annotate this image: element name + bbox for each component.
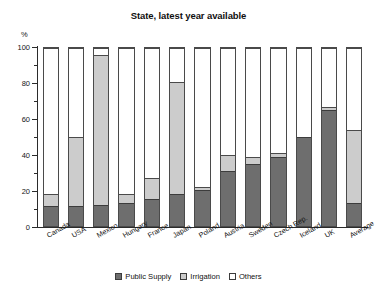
bar-segment-public-supply [119, 203, 133, 226]
y-axis-tick-label: 0 [4, 223, 30, 232]
bar-canada[interactable] [43, 47, 59, 227]
bar-segment-irrigation [145, 178, 159, 199]
plot-area [38, 47, 367, 227]
bar-czech-rep[interactable] [270, 47, 286, 227]
light-gray-swatch [180, 273, 187, 280]
bar-hungary[interactable] [118, 47, 134, 227]
bar-segment-irrigation [69, 137, 83, 206]
legend-item-others[interactable]: Others [229, 272, 262, 281]
bar-mexico[interactable] [93, 47, 109, 227]
bar-segment-public-supply [221, 171, 235, 226]
bar-segment-public-supply [271, 157, 285, 226]
y-axis-tick-label: 40 [4, 151, 30, 160]
bar-segment-public-supply [44, 206, 58, 226]
bar-poland[interactable] [194, 47, 210, 227]
bar-segment-others [297, 48, 311, 137]
y-axis-tick [32, 191, 37, 192]
dark-gray-swatch [115, 273, 122, 280]
bar-segment-others [94, 48, 108, 55]
y-axis-tick-label: 80 [4, 79, 30, 88]
bar-austria[interactable] [220, 47, 236, 227]
bar-segment-others [69, 48, 83, 137]
y-axis-minor-tick [34, 137, 37, 138]
legend-label: Public Supply [125, 272, 171, 281]
y-axis-tick [32, 47, 37, 48]
white-swatch [229, 273, 236, 280]
bar-segment-others [195, 48, 209, 187]
chart-title: State, latest year available [0, 10, 377, 21]
bar-segment-others [347, 48, 361, 130]
bar-iceland[interactable] [296, 47, 312, 227]
y-axis-minor-tick [34, 65, 37, 66]
bar-segment-public-supply [322, 110, 336, 226]
y-axis-tick [32, 83, 37, 84]
bar-japan[interactable] [169, 47, 185, 227]
y-axis-tick-label: 20 [4, 187, 30, 196]
y-axis-minor-tick [34, 173, 37, 174]
bar-segment-irrigation [94, 55, 108, 205]
bar-segment-irrigation [44, 194, 58, 206]
y-axis-minor-tick [34, 101, 37, 102]
bar-usa[interactable] [68, 47, 84, 227]
bar-segment-irrigation [170, 82, 184, 194]
y-axis-tick-label: 60 [4, 115, 30, 124]
legend-label: Others [239, 272, 262, 281]
y-axis-labels: 020406080100 [0, 0, 30, 296]
bar-segment-irrigation [119, 194, 133, 203]
bar-segment-others [322, 48, 336, 107]
y-axis-minor-tick [34, 209, 37, 210]
y-axis-tick [32, 155, 37, 156]
legend-item-irrigation[interactable]: Irrigation [180, 272, 220, 281]
bar-segment-others [44, 48, 58, 194]
bar-segment-public-supply [195, 190, 209, 226]
bar-segment-public-supply [94, 205, 108, 226]
y-axis-tick [32, 227, 37, 228]
bar-sweden[interactable] [245, 47, 261, 227]
bar-france[interactable] [144, 47, 160, 227]
y-axis-tick [32, 119, 37, 120]
bar-segment-others [119, 48, 133, 194]
bar-segment-others [170, 48, 184, 82]
bar-uk[interactable] [321, 47, 337, 227]
bar-segment-public-supply [246, 164, 260, 226]
y-axis-tick-label: 100 [4, 43, 30, 52]
bar-segment-others [271, 48, 285, 153]
bar-segment-others [221, 48, 235, 155]
bar-segment-irrigation [347, 130, 361, 203]
legend-item-public-supply[interactable]: Public Supply [115, 272, 171, 281]
bar-segment-others [145, 48, 159, 178]
bar-segment-public-supply [347, 203, 361, 226]
bar-segment-irrigation [221, 155, 235, 171]
bar-segment-irrigation [246, 157, 260, 164]
x-axis-tick-label: UK [323, 227, 336, 240]
bar-segment-public-supply [69, 206, 83, 226]
legend-label: Irrigation [190, 272, 220, 281]
chart-container: State, latest year available % 020406080… [0, 0, 377, 296]
bar-average[interactable] [346, 47, 362, 227]
bar-segment-others [246, 48, 260, 157]
chart-legend: Public SupplyIrrigationOthers [0, 272, 377, 281]
bar-segment-public-supply [170, 194, 184, 226]
